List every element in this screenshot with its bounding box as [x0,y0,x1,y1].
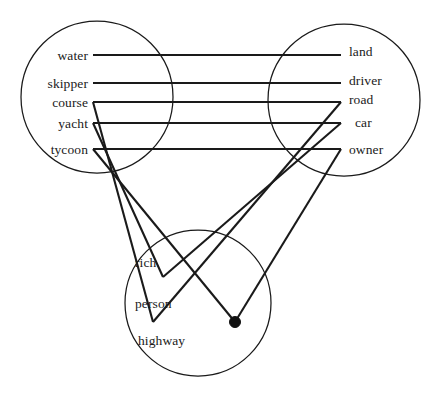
right-circle [268,24,420,176]
node-label-road: road [349,93,373,106]
node-label-rich-person: rich person [135,229,172,337]
center-dot-node [230,317,241,328]
edge-owner-dot [235,149,341,322]
node-label-skipper: skipper [48,77,88,90]
node-label-tycoon: tycoon [51,143,88,156]
edges-group [93,55,341,322]
left-circle [21,21,173,173]
node-label-land: land [349,45,373,58]
edge-road-highway [153,102,341,322]
node-label-yacht: yacht [58,117,88,130]
node-label-owner: owner [349,143,383,156]
node-label-highway: highway [138,334,185,347]
node-label-car: car [355,116,372,129]
node-label-course: course [52,96,88,109]
node-label-rich-line1: rich [135,256,172,270]
node-label-driver: driver [349,74,382,87]
node-label-rich-line2: person [135,297,172,311]
node-label-water: water [58,49,88,62]
diagram-canvas: water skipper course yacht tycoon land d… [0,0,442,400]
vertices-group [230,317,241,328]
